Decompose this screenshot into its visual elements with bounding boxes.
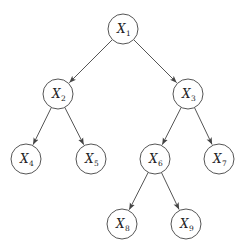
tree-diagram: X1X2X3X4X5X6X7X8X9 [0, 0, 246, 251]
edge-x3-x7-arrow [194, 108, 212, 145]
edges-layer [33, 40, 212, 210]
edge-x2-x4-arrow [33, 107, 51, 144]
node-x3: X3 [173, 79, 203, 109]
node-subscript: 6 [158, 159, 163, 168]
node-subscript: 9 [189, 224, 194, 233]
node-x1: X1 [108, 14, 138, 44]
node-x6: X6 [140, 144, 170, 174]
node-x8: X8 [107, 209, 137, 239]
edge-x1-x3-arrow [134, 40, 177, 83]
node-subscript: 3 [191, 94, 196, 103]
node-subscript: 7 [222, 159, 227, 168]
edge-x2-x5-arrow [65, 107, 84, 144]
node-label: X [116, 22, 126, 36]
node-x4: X4 [11, 144, 41, 174]
node-subscript: 2 [61, 94, 66, 103]
node-x7: X7 [204, 144, 234, 174]
edge-x6-x9-arrow [161, 173, 179, 210]
node-label: X [115, 217, 125, 231]
node-label: X [179, 217, 189, 231]
node-subscript: 4 [29, 159, 34, 168]
node-label: X [84, 152, 94, 166]
node-subscript: 8 [125, 224, 130, 233]
node-subscript: 5 [94, 159, 99, 168]
edge-x1-x2-arrow [69, 40, 112, 83]
node-x9: X9 [171, 209, 201, 239]
node-label: X [51, 87, 61, 101]
node-x2: X2 [43, 79, 73, 109]
edge-x6-x8-arrow [129, 172, 148, 209]
node-label: X [181, 87, 191, 101]
node-label: X [148, 152, 158, 166]
node-subscript: 1 [126, 29, 131, 38]
node-label: X [212, 152, 222, 166]
node-x5: X5 [76, 144, 106, 174]
edge-x3-x6-arrow [162, 107, 181, 144]
nodes-layer: X1X2X3X4X5X6X7X8X9 [11, 14, 234, 239]
node-label: X [19, 152, 29, 166]
